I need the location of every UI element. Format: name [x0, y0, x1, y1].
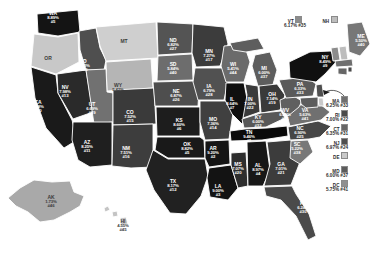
- state-shape-ND[interactable]: [157, 22, 193, 55]
- side-value-NJ: 6.97% #24: [302, 146, 348, 151]
- callout-VT: VT6.17% #35: [275, 16, 315, 29]
- state-shape-TX[interactable]: [146, 150, 208, 214]
- state-shape-RI[interactable]: [348, 67, 352, 72]
- us-choropleth-map: WA8.89%#5ORCA8.48%#10NV7.98%#13ID6.03%#3…: [0, 0, 386, 254]
- state-shape-MI[interactable]: [252, 52, 277, 88]
- state-shape-CT[interactable]: [338, 68, 347, 75]
- state-shape-MI-up[interactable]: [230, 38, 264, 52]
- state-shape-ME[interactable]: [347, 22, 370, 56]
- state-shape-AZ[interactable]: [72, 122, 112, 167]
- callout-value-VT: 6.17% #35: [275, 24, 315, 29]
- side-label-RI: RI7.00% #22: [302, 110, 348, 123]
- callout-swatch-VT: [295, 16, 302, 23]
- side-value-DC: 5.75% #41: [302, 188, 348, 193]
- state-shape-SD[interactable]: [157, 54, 193, 81]
- side-swatch-DC: [341, 180, 348, 187]
- state-shape-MT[interactable]: [96, 22, 158, 61]
- side-swatch-DE: [341, 152, 348, 159]
- side-label-DC: DC5.75% #41: [302, 180, 348, 193]
- state-shape-KS[interactable]: [156, 107, 200, 136]
- side-swatch-CT: [341, 124, 348, 131]
- state-shape-HI-3[interactable]: [120, 217, 128, 225]
- side-abbr-DE: DE: [302, 152, 348, 160]
- side-swatch-MD: [341, 166, 348, 173]
- side-label-CT: CT6.35% #31: [302, 124, 348, 137]
- side-swatch-RI: [341, 110, 348, 117]
- side-value-CT: 6.35% #31: [302, 132, 348, 137]
- side-swatch-NJ: [341, 138, 348, 145]
- callout-swatch-NH: [331, 16, 338, 23]
- side-value-MA: 6.25% #33: [302, 104, 348, 109]
- state-shape-NE[interactable]: [153, 81, 199, 106]
- state-shape-CO[interactable]: [113, 88, 156, 125]
- state-shape-IN[interactable]: [243, 84, 260, 118]
- state-shape-WY[interactable]: [106, 59, 153, 91]
- state-shape-OK[interactable]: [155, 137, 205, 158]
- state-shape-WA[interactable]: [37, 10, 80, 36]
- state-shape-AR[interactable]: [205, 140, 230, 167]
- side-label-MA: MA6.25% #33: [302, 96, 348, 109]
- callout-abbr-NH: NH: [322, 19, 337, 24]
- state-shape-FL[interactable]: [264, 186, 316, 240]
- state-shape-HI-2[interactable]: [112, 211, 118, 217]
- state-shape-NY[interactable]: [289, 51, 336, 82]
- side-swatch-MA: [341, 96, 348, 103]
- state-shape-NM[interactable]: [112, 124, 153, 168]
- side-label-NJ: NJ6.97% #24: [302, 138, 348, 151]
- state-shape-HI[interactable]: [104, 206, 110, 212]
- side-label-MD: MD6.00% #37: [302, 166, 348, 179]
- side-value-RI: 7.00% #22: [302, 118, 348, 123]
- state-shape-TN[interactable]: [230, 126, 288, 141]
- side-label-DE: DE: [302, 152, 348, 160]
- state-shape-NH[interactable]: [339, 46, 348, 60]
- callout-NH: NH: [310, 16, 350, 24]
- state-shape-VT[interactable]: [331, 47, 340, 61]
- state-shape-OR[interactable]: [31, 33, 79, 74]
- state-shape-AK[interactable]: [8, 180, 84, 222]
- side-value-MD: 6.00% #37: [302, 174, 348, 179]
